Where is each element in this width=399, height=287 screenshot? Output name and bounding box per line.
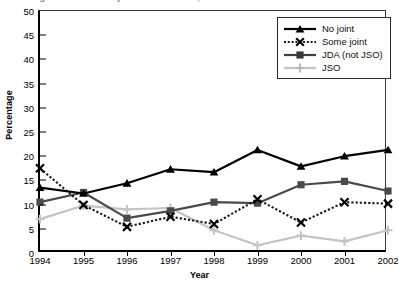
legend-label-jda: JDA (not JSO) xyxy=(322,49,383,61)
data-point xyxy=(123,205,132,214)
legend-item-some-joint: Some joint xyxy=(283,35,383,48)
x-axis-tick-mark xyxy=(214,250,215,256)
legend-item-no-joint: No joint xyxy=(283,22,383,35)
data-point xyxy=(340,237,349,246)
data-point xyxy=(36,215,45,224)
legend-item-jso: JSO xyxy=(283,61,383,74)
chart-container: Figure: Trends in joint attendance, 1994… xyxy=(0,0,399,287)
y-axis-tick-label: 35 xyxy=(23,78,40,89)
data-point xyxy=(123,215,130,222)
legend-key-jda xyxy=(283,49,317,61)
x-axis-tick-label: 2000 xyxy=(290,255,311,266)
x-axis-tick-mark xyxy=(127,250,128,256)
x-axis-tick-label: 1996 xyxy=(116,255,137,266)
y-axis-tick-label: 45 xyxy=(23,30,40,41)
y-axis-tick-mark xyxy=(40,59,46,60)
data-point xyxy=(210,199,217,206)
x-axis-tick-label: 1999 xyxy=(247,255,268,266)
x-axis-tick-label: 2001 xyxy=(334,255,355,266)
series-no-joint xyxy=(36,146,393,197)
data-point xyxy=(341,178,348,185)
y-axis-tick-label: 15 xyxy=(23,175,40,186)
x-axis-tick-mark xyxy=(171,250,172,256)
y-axis-tick-label: 10 xyxy=(23,199,40,210)
data-point xyxy=(36,164,44,172)
y-axis-tick-mark xyxy=(40,35,46,36)
x-axis-tick-label: 1998 xyxy=(203,255,224,266)
y-axis-tick-label: 5 xyxy=(29,223,40,234)
y-axis-tick-mark xyxy=(40,228,46,229)
y-axis-tick-mark xyxy=(40,180,46,181)
y-axis-tick-label: 30 xyxy=(23,102,40,113)
x-axis-tick-mark xyxy=(258,250,259,256)
data-point xyxy=(384,187,391,194)
data-point xyxy=(384,226,393,235)
x-axis-tick-mark xyxy=(84,250,85,256)
y-axis-tick-label: 25 xyxy=(23,127,40,138)
y-axis-tick-mark xyxy=(40,132,46,133)
y-axis-tick-label: 50 xyxy=(23,6,40,17)
data-point xyxy=(253,146,262,154)
x-axis-tick-mark xyxy=(301,250,302,256)
x-axis-tick-mark xyxy=(345,250,346,256)
y-axis-tick-mark xyxy=(40,83,46,84)
data-point xyxy=(253,241,262,250)
data-point xyxy=(297,219,305,227)
chart-title: Figure: Trends in joint attendance, 1994… xyxy=(30,0,253,2)
y-axis-label: Percentage xyxy=(4,75,14,155)
y-axis-tick-mark xyxy=(40,107,46,108)
y-axis-tick-label: 20 xyxy=(23,151,40,162)
legend-item-jda: JDA (not JSO) xyxy=(283,48,383,61)
x-axis-tick-label: 1997 xyxy=(160,255,181,266)
series-jda-not-jso xyxy=(36,178,391,222)
y-axis-tick-mark xyxy=(40,204,46,205)
x-axis-tick-label: 2002 xyxy=(377,255,398,266)
chart-legend: No joint Some joint JDA (not JSO) JSO xyxy=(277,17,391,79)
y-axis-tick-mark xyxy=(40,156,46,157)
data-point xyxy=(123,223,131,231)
data-point xyxy=(297,231,306,240)
legend-key-some-joint xyxy=(283,36,317,48)
x-axis-label: Year xyxy=(0,270,399,280)
x-axis-tick-label: 1994 xyxy=(29,255,50,266)
legend-key-jso xyxy=(283,62,317,74)
y-axis-tick-label: 40 xyxy=(23,54,40,65)
legend-key-no-joint xyxy=(283,23,317,35)
data-point xyxy=(297,181,304,188)
legend-label-no-joint: No joint xyxy=(322,23,354,35)
x-axis-tick-label: 1995 xyxy=(73,255,94,266)
legend-label-jso: JSO xyxy=(322,62,340,74)
legend-label-some-joint: Some joint xyxy=(322,36,367,48)
